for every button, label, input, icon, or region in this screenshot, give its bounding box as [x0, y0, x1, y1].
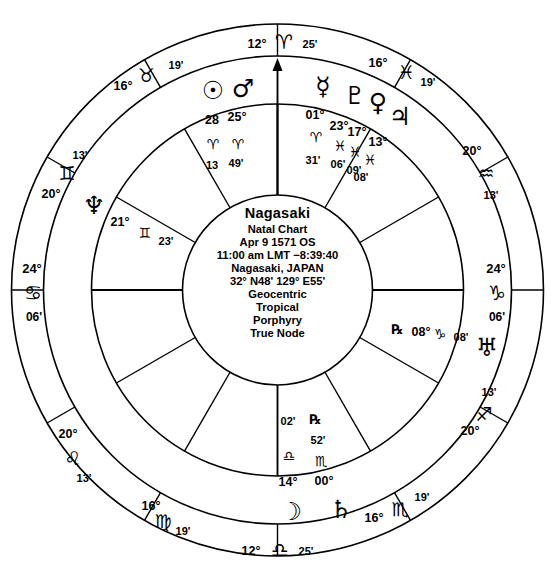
midheaven-arrow: [273, 58, 283, 195]
natal-chart-wheel: Nagasaki Natal Chart Apr 9 1571 OS 11:00…: [0, 0, 555, 580]
inner-hub-circle: [183, 195, 373, 385]
chart-wheel-graphic: [0, 0, 555, 580]
